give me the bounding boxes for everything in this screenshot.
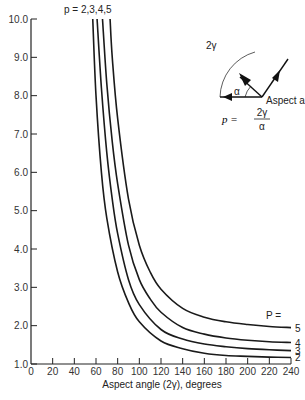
curve-p-2 [93,19,291,357]
curve-p-5 [110,19,291,328]
x-tick-label: 20 [47,366,59,377]
x-tick-label: 0 [28,366,34,377]
x-tick-label: 200 [239,366,256,377]
x-tick-label: 220 [261,366,278,377]
y-tick-label: 6.0 [14,167,28,178]
formula-numerator: 2γ [257,107,268,118]
curve-label-p-5: 5 [295,323,301,334]
angle-arc-alpha [245,86,251,97]
x-axis-label: Aspect angle (2γ), degrees [102,379,222,390]
reference-arrowhead [223,93,232,101]
y-tick-label: 4.0 [14,244,28,255]
x-tick-label: 100 [131,366,148,377]
x-tick-label: 140 [174,366,191,377]
x-tick-label: 180 [218,366,235,377]
y-tick-label: 7.0 [14,129,28,140]
y-tick-label: 9.0 [14,52,28,63]
y-tick-label: 5.0 [14,205,28,216]
formula-denominator: α [259,121,265,132]
x-tick-label: 80 [112,366,124,377]
chart: 1.02.03.04.05.06.07.08.09.010.0020406080… [0,0,305,400]
curve-label-p-4: 4 [295,338,301,349]
inset-diagram: 2γ α Aspect angle p = 2γ α [206,40,305,132]
alpha-arrowhead [239,73,251,86]
x-tick-label: 60 [90,366,102,377]
curve-p-4 [103,19,292,343]
y-tick-label: 8.0 [14,90,28,101]
x-tick-label: 40 [69,366,81,377]
x-tick-label: 160 [196,366,213,377]
legend-title: P = [266,310,281,321]
x-tick-label: 120 [153,366,170,377]
x-tick-label: 240 [283,366,300,377]
y-tick-label: 2.0 [14,320,28,331]
y-tick-label: 3.0 [14,282,28,293]
y-tick-label: 10.0 [9,14,29,25]
inset-aspect-label: Aspect angle [266,95,305,106]
inset-alpha-label: α [234,86,240,97]
y-tick-label: 1.0 [14,359,28,370]
top-label: p = 2,3,4,5 [64,4,112,15]
formula-lhs: p = [221,113,238,125]
inset-2gamma-label: 2γ [206,40,217,51]
